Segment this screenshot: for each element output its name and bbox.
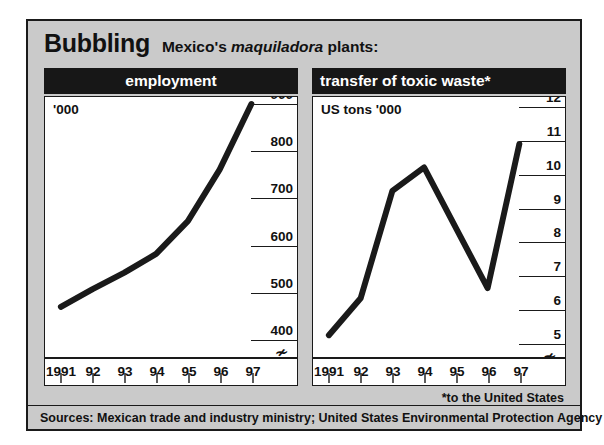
y-tick-label: 9: [553, 193, 561, 207]
y-tick-label: 5: [553, 328, 561, 342]
chart-subtitle: Mexico's maquiladora plants:: [162, 38, 378, 56]
toxic-waste-x-axis-box: 1991929394959697: [312, 358, 566, 386]
x-tick-label: 97: [245, 364, 260, 379]
y-gridline: [519, 242, 565, 243]
x-tick-label: 1991: [46, 364, 76, 379]
toxic-waste-x-labels: 1991929394959697: [313, 359, 565, 385]
x-tick-label: 96: [481, 364, 496, 379]
x-tick-label: 93: [385, 364, 400, 379]
y-tick-label: 10: [546, 159, 561, 173]
y-tick-label: 11: [547, 125, 561, 139]
subtitle-before: Mexico's: [162, 38, 231, 55]
y-tick-label: 7: [553, 260, 561, 274]
chart-title-row: Bubbling Mexico's maquiladora plants:: [44, 29, 564, 63]
employment-x-labels: 1991929394959697: [45, 359, 297, 385]
y-gridline: [519, 175, 565, 176]
y-tick-label: 900: [270, 96, 293, 102]
y-gridline: [251, 246, 297, 247]
subtitle-after: plants:: [323, 38, 378, 55]
x-tick-label: 95: [181, 364, 196, 379]
y-gridline: [251, 340, 297, 341]
x-tick-label: 93: [117, 364, 132, 379]
x-tick-label: 1991: [314, 364, 344, 379]
y-tick-label: 400: [270, 324, 293, 338]
y-tick-label: 800: [270, 135, 293, 149]
panel-toxic-waste-plot: US tons '000 12111098765≁: [312, 96, 566, 358]
subtitle-italic-term: maquiladora: [231, 38, 323, 55]
x-tick-label: 97: [513, 364, 528, 379]
y-gridline: [519, 141, 565, 142]
y-gridline: [251, 198, 297, 199]
page-title: Bubbling: [44, 29, 150, 58]
panel-employment-header: employment: [44, 68, 298, 94]
panel-toxic-waste: transfer of toxic waste* US tons '000 12…: [312, 68, 566, 388]
panel-employment-plot: '000 900800700600500400≁: [44, 96, 298, 358]
x-tick-label: 92: [353, 364, 368, 379]
employment-y-axis: 900800700600500400≁: [251, 97, 297, 357]
employment-x-axis-box: 1991929394959697: [44, 358, 298, 386]
y-tick-label: 6: [553, 294, 561, 308]
y-gridline: [251, 293, 297, 294]
panel-employment: employment '000 900800700600500400≁ 1991…: [44, 68, 298, 388]
axis-break-icon: ≁: [542, 348, 555, 358]
x-tick-label: 96: [213, 364, 228, 379]
footnote: *to the United States: [442, 391, 564, 405]
y-tick-label: 500: [270, 277, 293, 291]
x-tick-label: 94: [417, 364, 432, 379]
employment-data-line: [61, 104, 251, 307]
y-tick-label: 12: [546, 96, 561, 105]
x-tick-label: 92: [85, 364, 100, 379]
y-tick-label: 600: [270, 230, 293, 244]
x-tick-label: 95: [449, 364, 464, 379]
toxic-waste-data-line: [329, 144, 519, 335]
y-gridline: [519, 209, 565, 210]
y-gridline: [251, 151, 297, 152]
chart-figure: Bubbling Mexico's maquiladora plants: em…: [0, 0, 604, 445]
y-gridline: [519, 344, 565, 345]
panel-toxic-waste-header: transfer of toxic waste*: [312, 68, 566, 94]
y-tick-label: 8: [553, 226, 561, 240]
sources-bar: Sources: Mexican trade and industry mini…: [28, 405, 580, 429]
y-gridline: [519, 310, 565, 311]
sources-text: Sources: Mexican trade and industry mini…: [40, 411, 602, 425]
x-tick-label: 94: [149, 364, 164, 379]
y-gridline: [519, 276, 565, 277]
y-tick-label: 700: [270, 182, 293, 196]
y-gridline: [251, 104, 297, 105]
axis-break-icon: ≁: [274, 344, 287, 358]
chart-frame: Bubbling Mexico's maquiladora plants: em…: [26, 19, 582, 431]
y-gridline: [519, 107, 565, 108]
toxic-waste-y-axis: 12111098765≁: [519, 97, 565, 357]
